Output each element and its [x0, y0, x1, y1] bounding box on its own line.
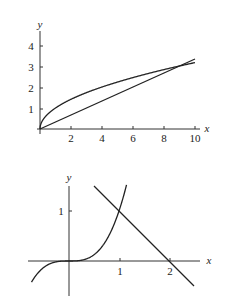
- top-xtick-label: 6: [130, 132, 136, 144]
- bottom-ytick-label: 1: [58, 205, 64, 217]
- top-chart: 1 2 3 4 2 4 6 8 10 y x: [28, 18, 209, 144]
- top-ytick-label: 2: [28, 82, 34, 94]
- bottom-xtick-label: 2: [167, 265, 173, 277]
- bottom-x-label: x: [206, 254, 212, 266]
- top-xtick-label: 4: [99, 132, 105, 144]
- bottom-xtick-label: 1: [117, 265, 123, 277]
- top-ytick-label: 3: [28, 61, 34, 73]
- bottom-chart: 1 1 2 y x: [28, 171, 212, 296]
- top-xtick-label: 2: [68, 132, 74, 144]
- figure: 1 2 3 4 2 4 6 8 10 y x 1 1 2 y x: [0, 0, 225, 300]
- cubic-curve: [32, 185, 127, 282]
- top-ytick-label: 4: [28, 40, 34, 52]
- top-x-label: x: [204, 122, 210, 134]
- line-x-over-3: [40, 59, 195, 129]
- top-xtick-label: 10: [190, 132, 202, 144]
- top-xtick-label: 8: [161, 132, 167, 144]
- top-y-label: y: [37, 18, 43, 30]
- top-ytick-label: 1: [28, 103, 34, 115]
- bottom-y-label: y: [66, 171, 72, 183]
